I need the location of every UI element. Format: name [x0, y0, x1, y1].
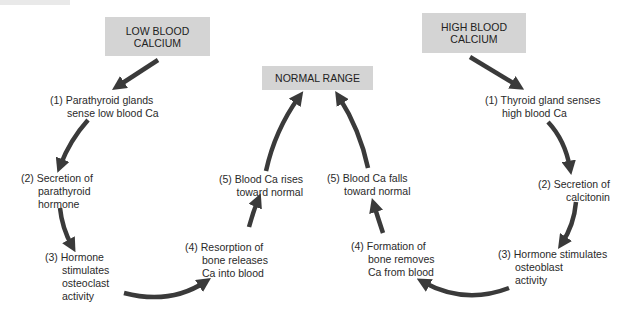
arrow-step2-to-step3 [60, 208, 72, 246]
arrow-step4-to-step5-right [374, 205, 383, 233]
arrow-step1-to-step2 [60, 120, 88, 166]
arrow-step3-to-step4 [124, 282, 205, 297]
arrow-step2-to-step3-right [562, 202, 576, 243]
arrow-high-to-step1 [470, 57, 518, 86]
arrow-step4-to-step5 [249, 200, 258, 227]
arrows-layer [0, 0, 630, 314]
arrow-low-to-step1 [118, 60, 158, 86]
arrow-step1-to-step2-right [548, 122, 570, 168]
arrow-step3-to-step4-right [423, 282, 509, 295]
arrow-step5-to-normal-right [339, 97, 368, 168]
arrow-step5-to-normal [266, 97, 299, 171]
